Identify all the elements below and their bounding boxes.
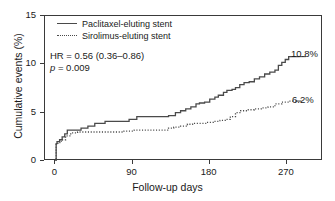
solid-line-icon xyxy=(57,20,77,28)
y-tick-label: 5 xyxy=(10,107,36,117)
legend-label-paclitaxel: Paclitaxel-eluting stent xyxy=(82,19,172,30)
x-tick-label: 270 xyxy=(269,167,303,177)
x-tick-label: 90 xyxy=(115,167,149,177)
legend: Paclitaxel-eluting stent Sirolimus-eluti… xyxy=(57,19,172,42)
y-tick-label: 10 xyxy=(10,58,36,68)
legend-item-paclitaxel: Paclitaxel-eluting stent xyxy=(57,19,172,30)
y-axis-title: Cumulative events (%) xyxy=(12,11,24,161)
x-tick-label: 180 xyxy=(192,167,226,177)
y-tick-mark xyxy=(40,160,44,161)
hazard-ratio-text: HR = 0.56 (0.36–0.86) xyxy=(50,50,144,62)
endpoint-label-paclitaxel: 10.8% xyxy=(291,49,318,59)
x-axis-title: Follow-up days xyxy=(0,181,335,193)
endpoint-label-sirolimus: 6.2% xyxy=(292,95,314,105)
legend-label-sirolimus: Sirolimus-eluting stent xyxy=(82,31,171,42)
p-value-text: p = 0.009 xyxy=(50,62,144,74)
x-tick-label: 0 xyxy=(37,167,71,177)
dotted-line-icon xyxy=(57,32,77,40)
p-value-number: = 0.009 xyxy=(55,62,90,73)
legend-item-sirolimus: Sirolimus-eluting stent xyxy=(57,31,172,42)
y-tick-label: 0 xyxy=(10,155,36,165)
statistics-annotation: HR = 0.56 (0.36–0.86) p = 0.009 xyxy=(50,50,144,73)
kaplan-meier-chart: Cumulative events (%) 051015 090180270 F… xyxy=(0,0,335,201)
curve-dotted xyxy=(55,101,295,161)
y-tick-label: 15 xyxy=(10,10,36,20)
